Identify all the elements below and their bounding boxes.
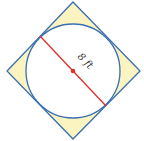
square-circle-diagram: 8 ft bbox=[0, 0, 144, 141]
center-point bbox=[71, 69, 76, 74]
